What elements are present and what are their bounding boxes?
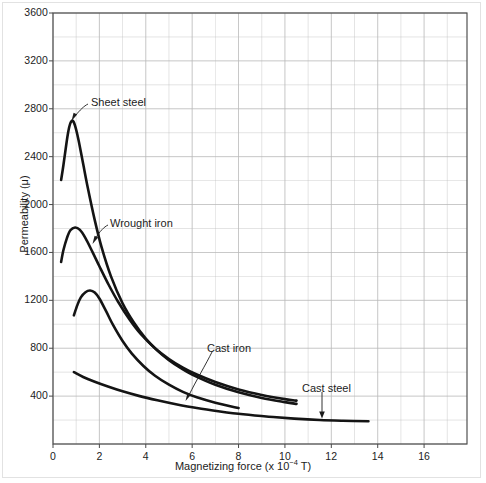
annotation-label-sheet-steel: Sheet steel xyxy=(91,96,146,108)
x-axis-title-pre: Magnetizing force (x 10 xyxy=(175,460,289,472)
curve-cast-steel xyxy=(74,372,369,421)
y-axis-title: Permeability (μ) xyxy=(18,154,30,274)
y-tick-label: 3600 xyxy=(8,6,48,18)
permeability-chart-figure: 3600320028002400200016001200800400 02468… xyxy=(0,0,486,483)
y-tick-label: 1200 xyxy=(8,293,48,305)
annotation-label-cast-steel: Cast steel xyxy=(302,382,351,394)
x-axis-title-exponent: −4 xyxy=(289,458,298,467)
y-tick-label: 3200 xyxy=(8,54,48,66)
x-axis-title-post: T) xyxy=(298,460,311,472)
annotation-label-cast-iron: Cast iron xyxy=(207,342,251,354)
annotation-label-wrought-iron: Wrought iron xyxy=(110,217,173,229)
x-axis-title: Magnetizing force (x 10−4 T) xyxy=(0,458,486,472)
y-tick-label: 400 xyxy=(8,389,48,401)
y-tick-label: 2800 xyxy=(8,102,48,114)
curve-wrought-iron xyxy=(61,228,296,401)
y-tick-label: 800 xyxy=(8,341,48,353)
axis-lines xyxy=(49,13,467,448)
annotation-leaders xyxy=(72,104,325,419)
plot-canvas xyxy=(0,0,486,483)
data-curves xyxy=(61,121,368,422)
